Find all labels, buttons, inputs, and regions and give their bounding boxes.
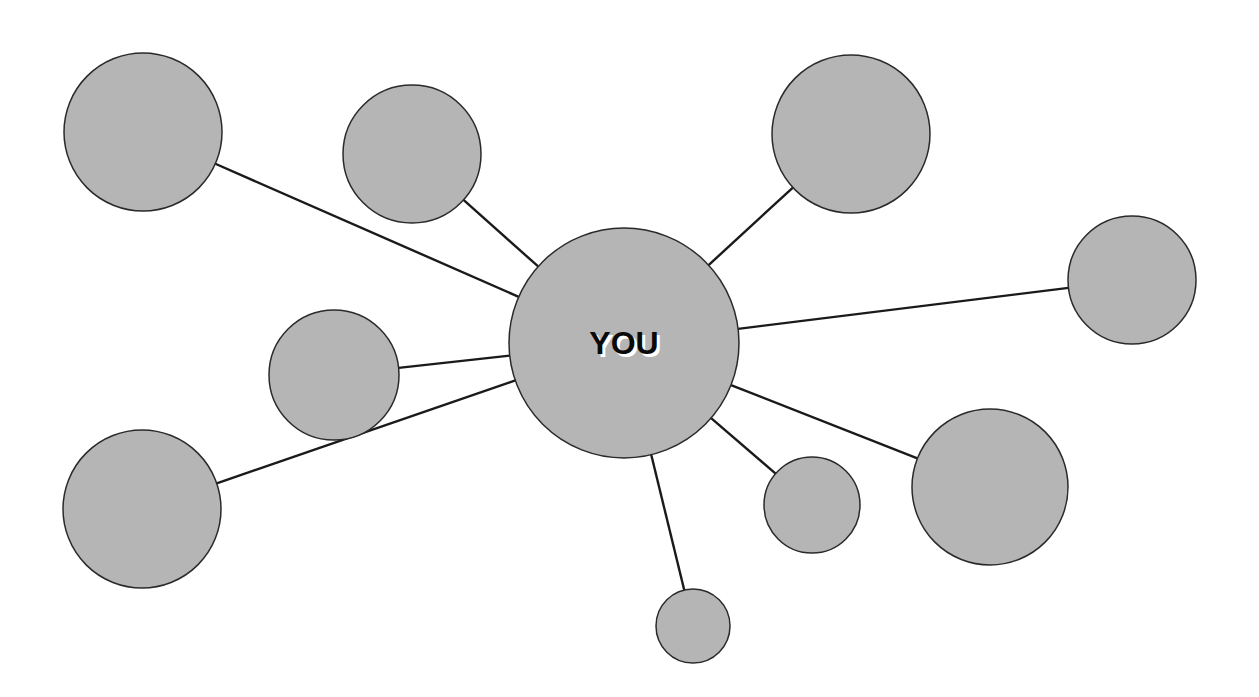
connector-line — [464, 200, 539, 267]
satellite-node — [764, 457, 860, 553]
connector-line — [709, 188, 793, 266]
satellite-node — [343, 85, 481, 223]
diagram-canvas: YOU YOU — [0, 0, 1259, 697]
connector-line — [711, 418, 776, 474]
connector-line — [399, 356, 510, 368]
connector-line — [731, 385, 917, 458]
satellite-node — [269, 310, 399, 440]
connector-line — [738, 288, 1068, 329]
satellite-node — [656, 589, 730, 663]
satellite-node — [1068, 216, 1196, 344]
center-label: YOU — [589, 325, 658, 361]
network-diagram: YOU YOU — [0, 0, 1259, 697]
satellite-node — [63, 430, 221, 588]
satellite-node — [772, 55, 930, 213]
satellite-node — [912, 409, 1068, 565]
connector-line — [651, 455, 684, 590]
center-node: YOU YOU — [509, 228, 739, 458]
satellite-node — [64, 53, 222, 211]
